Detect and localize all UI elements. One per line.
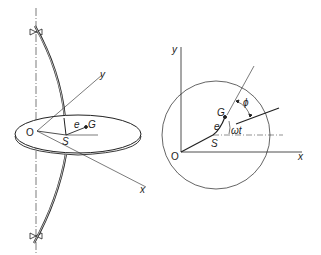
label-x-right: x	[297, 151, 304, 162]
label-y-right: y	[171, 44, 178, 55]
label-x-left: x	[139, 184, 146, 195]
mass-center-dot-left	[85, 126, 88, 129]
right-view	[162, 47, 302, 189]
shaft-upper	[35, 26, 65, 118]
left-view	[15, 8, 146, 255]
shaft-lower	[34, 154, 66, 243]
rotating-line	[236, 108, 279, 124]
label-o-right: O	[171, 151, 179, 162]
diagram-canvas: y x O S e G y x O S e G ωt	[0, 0, 321, 255]
label-s-left: S	[62, 136, 69, 147]
rotation-angle-arc	[229, 121, 230, 134]
g-direction-line	[227, 66, 254, 115]
label-y-left: y	[99, 69, 106, 80]
label-e-right: e	[214, 121, 220, 132]
label-omega-t: ωt	[231, 125, 243, 136]
o-to-s-line-right	[181, 135, 213, 152]
label-phi: ϕ	[243, 97, 249, 108]
rotor-diagram: y x O S e G y x O S e G ωt	[0, 0, 321, 255]
label-o-left: O	[26, 127, 34, 138]
label-g-left: G	[88, 119, 96, 130]
label-e-left: e	[74, 119, 80, 130]
label-g-right: G	[217, 107, 225, 118]
label-s-right: S	[211, 138, 218, 149]
